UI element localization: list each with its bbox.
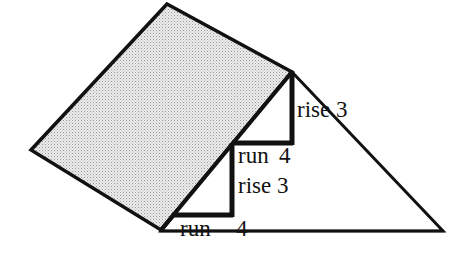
upper-run-value: 4 <box>279 143 291 168</box>
lower-run-value: 4 <box>236 216 248 241</box>
lower-run-label: run <box>180 216 211 241</box>
lower-rise-label: rise 3 <box>238 173 288 198</box>
slope-diagram: rise 3 run 4 rise 3 run 4 <box>0 0 469 255</box>
diagram-canvas: rise 3 run 4 rise 3 run 4 <box>0 0 469 255</box>
upper-run-label: run <box>238 143 269 168</box>
upper-rise-label: rise 3 <box>297 97 347 122</box>
